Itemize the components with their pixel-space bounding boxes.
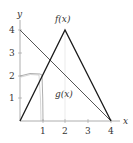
g-line — [20, 30, 111, 121]
f-label: f(x) — [54, 14, 71, 24]
g-label: g(x) — [55, 89, 73, 99]
y-tick-3: 3 — [9, 48, 15, 58]
x-tick-2: 2 — [62, 126, 68, 136]
x-tick-1: 1 — [40, 126, 46, 136]
y-axis-label: y — [16, 9, 23, 19]
function-plot: y x f(x) g(x) 1 2 3 4 1 2 3 4 — [0, 0, 133, 143]
y-tick-4: 4 — [9, 25, 15, 35]
x-axis-label: x — [123, 116, 128, 126]
y-tick-1: 1 — [9, 93, 15, 103]
y-tick-2: 2 — [9, 71, 15, 81]
x-tick-3: 3 — [85, 126, 91, 136]
x-tick-4: 4 — [108, 126, 114, 136]
